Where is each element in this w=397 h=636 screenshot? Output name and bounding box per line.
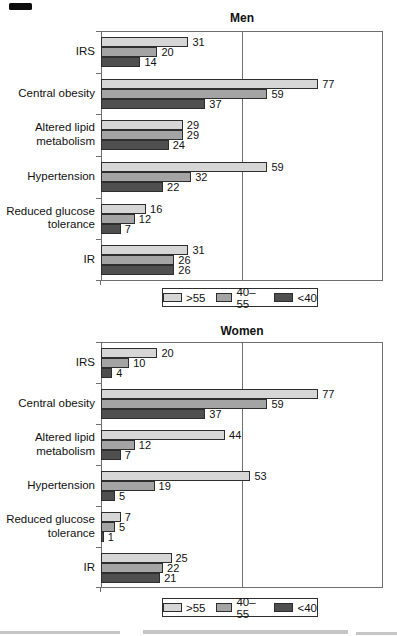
bar-men [101,37,188,47]
cropped-caption-artifact [356,632,397,635]
axis-tick-men [96,239,101,240]
category-label-women: Altered lipid metabolism [0,424,95,465]
legend-label: 40–55 [236,286,264,310]
legend-swatch-icon [163,293,182,302]
value-label-women: 37 [209,408,221,420]
axis-tick-men [96,73,101,74]
bar-men [101,182,163,192]
gridline-50-women [242,342,243,588]
value-label-women: 5 [119,521,125,533]
value-label-women: 7 [125,511,131,523]
bar-women [101,389,318,399]
axis-tick-men [96,198,101,199]
axis-corner-tick-men [100,281,101,285]
value-label-men: 22 [167,181,179,193]
axis-tick-men [96,156,101,157]
cropped-caption-artifact [143,630,348,634]
legend-swatch-icon [274,293,293,302]
bar-men [101,120,183,130]
category-label-men: IRS [0,31,95,73]
value-label-men: 24 [173,139,185,151]
value-label-women: 1 [108,531,114,543]
value-label-men: 37 [209,98,221,110]
axis-tick-men [96,31,101,32]
bar-women [101,358,129,368]
value-label-men: 14 [144,56,156,68]
axis-tick-women [96,383,101,384]
bar-women [101,399,267,409]
legend-item-men: <40 [274,292,317,304]
legend-label: >55 [186,602,206,614]
value-label-men: 20 [161,46,173,58]
value-label-women: 44 [229,429,241,441]
axis-tick-women [96,424,101,425]
legend-men: >5540–55<40 [162,288,318,307]
category-label-women: IR [0,547,95,588]
value-label-women: 4 [116,367,122,379]
value-label-men: 31 [192,36,204,48]
bar-women [101,348,157,358]
legend-swatch-icon [274,603,293,612]
bar-women [101,368,112,378]
category-label-men: Hypertension [0,156,95,198]
legend-label: 40–55 [236,596,264,620]
bar-women [101,491,115,501]
category-label-women: IRS [0,342,95,383]
legend-swatch-icon [163,603,182,612]
legend-label: >55 [186,292,206,304]
bar-men [101,255,174,265]
bar-women [101,450,121,460]
value-label-women: 7 [125,449,131,461]
bar-men [101,265,174,275]
chart-title-men: Men [101,11,383,25]
cropped-caption-artifact [0,631,120,634]
category-label-men: Reduced glucose tolerance [0,198,95,240]
axis-tick-women [96,465,101,466]
value-label-men: 7 [125,223,131,235]
legend-item-women: <40 [274,602,317,614]
axis-tick-women [96,342,101,343]
bar-men [101,245,188,255]
bar-men [101,99,205,109]
value-label-women: 5 [119,490,125,502]
legend-item-men: 40–55 [216,286,265,310]
value-label-men: 31 [192,244,204,256]
axis-tick-men [96,114,101,115]
legend-swatch-icon [216,293,233,302]
category-label-women: Central obesity [0,383,95,424]
value-label-women: 59 [271,398,283,410]
value-label-men: 26 [178,264,190,276]
legend-item-women: >55 [163,602,206,614]
value-label-women: 19 [159,480,171,492]
figure-canvas: Men Women IRS312014Central obesity775937… [0,0,397,636]
axis-tick-women [96,506,101,507]
category-label-men: Altered lipid metabolism [0,114,95,156]
bar-men [101,224,121,234]
value-label-women: 12 [139,439,151,451]
bar-men [101,162,267,172]
gridline-50-men [242,31,243,281]
bar-men [101,140,169,150]
value-label-men: 16 [150,203,162,215]
bar-women [101,553,172,563]
value-label-men: 29 [187,129,199,141]
bar-men [101,130,183,140]
category-label-men: Central obesity [0,73,95,115]
bar-women [101,512,121,522]
bar-women [101,573,160,583]
bar-women [101,409,205,419]
value-label-men: 77 [322,78,334,90]
bar-men [101,57,140,67]
value-label-women: 21 [164,572,176,584]
bar-women [101,471,250,481]
scan-artifact [9,3,32,10]
legend-women: >5540–55<40 [162,598,318,617]
legend-label: <40 [297,292,317,304]
value-label-men: 59 [271,161,283,173]
value-label-men: 59 [271,88,283,100]
legend-item-men: >55 [163,292,206,304]
legend-item-women: 40–55 [216,596,265,620]
bar-women [101,430,225,440]
value-label-women: 20 [161,347,173,359]
value-label-men: 32 [195,171,207,183]
